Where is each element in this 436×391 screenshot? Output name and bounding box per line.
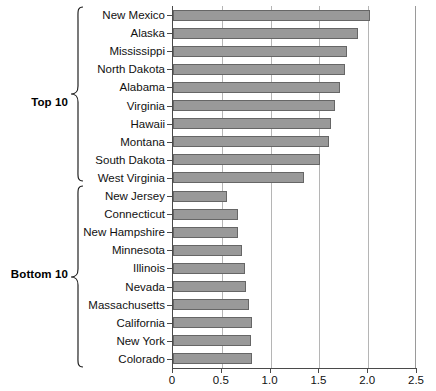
horizontal-bar-chart: Top 10 Bottom 10 New MexicoAlaskaMississ…	[0, 0, 436, 391]
bar	[173, 118, 331, 129]
bar	[173, 245, 242, 256]
y-axis-label: Alabama	[120, 78, 165, 96]
y-axis-label: Connecticut	[104, 205, 165, 223]
bar	[173, 100, 335, 111]
y-axis-label: South Dakota	[95, 151, 165, 169]
bar	[173, 172, 304, 183]
y-axis-label: Mississippi	[109, 42, 165, 60]
y-axis-label: North Dakota	[97, 60, 165, 78]
x-axis-tick	[318, 368, 319, 373]
x-axis-tick	[221, 368, 222, 373]
bar	[173, 136, 329, 147]
bar	[173, 10, 370, 21]
bar	[173, 82, 340, 93]
y-axis-label: New Mexico	[102, 6, 165, 24]
y-axis-label: West Virginia	[98, 169, 165, 187]
x-axis-tick-label: 2.0	[347, 374, 387, 386]
y-axis-label: New Jersey	[105, 187, 165, 205]
gridline	[222, 6, 223, 368]
y-axis-label: Colorado	[118, 350, 165, 368]
group-label-top-10: Top 10	[6, 96, 68, 108]
x-axis-tick	[172, 368, 173, 373]
y-axis-label: Illinois	[133, 259, 165, 277]
plot-area	[172, 6, 416, 368]
bar	[173, 154, 320, 165]
x-axis-line	[172, 368, 417, 369]
bar	[173, 191, 227, 202]
bar	[173, 263, 245, 274]
bar	[173, 299, 249, 310]
bar	[173, 353, 252, 364]
y-axis-label: New York	[116, 332, 165, 350]
x-axis-tick	[416, 368, 417, 373]
y-axis-label: Hawaii	[130, 115, 165, 133]
brace-bottom-10-icon	[70, 185, 84, 368]
x-axis-tick	[367, 368, 368, 373]
bar	[173, 46, 347, 57]
y-axis-label: Nevada	[125, 278, 165, 296]
y-axis-label: California	[116, 314, 165, 332]
y-axis-label: Alaska	[130, 24, 165, 42]
y-axis-label: Minnesota	[112, 241, 165, 259]
y-axis-label: Virginia	[127, 97, 165, 115]
y-axis-label: Montana	[120, 133, 165, 151]
bar	[173, 28, 358, 39]
x-axis-tick-label: 2.5	[396, 374, 436, 386]
bar	[173, 64, 345, 75]
bar	[173, 281, 246, 292]
x-axis-tick-label: 0.5	[201, 374, 241, 386]
x-axis-tick	[270, 368, 271, 373]
bar	[173, 317, 252, 328]
bar	[173, 209, 238, 220]
brace-top-10-icon	[70, 6, 84, 182]
gridline	[271, 6, 272, 368]
x-axis-tick-label: 1.0	[250, 374, 290, 386]
group-label-bottom-10: Bottom 10	[0, 268, 68, 280]
y-axis-labels: New MexicoAlaskaMississippiNorth DakotaA…	[84, 6, 169, 368]
bar	[173, 227, 238, 238]
bar	[173, 335, 251, 346]
x-axis-tick-label: 1.5	[298, 374, 338, 386]
gridline	[368, 6, 369, 368]
gridline	[319, 6, 320, 368]
y-axis-label: Massachusetts	[88, 296, 165, 314]
y-axis-label: New Hampshire	[83, 223, 165, 241]
x-axis-tick-label: 0	[152, 374, 192, 386]
